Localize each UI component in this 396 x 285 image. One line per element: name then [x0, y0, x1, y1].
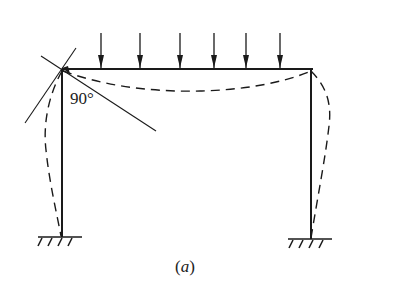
distributed-load-arrows [98, 33, 283, 68]
caption-letter: a [181, 257, 190, 276]
deflected-right-column [311, 71, 330, 238]
figure-caption: (a) [175, 257, 195, 277]
portal-frame-diagram: 90° (a) [0, 0, 396, 285]
frame-drawing [0, 0, 396, 285]
tangent-line-beam [41, 56, 156, 131]
angle-label: 90° [70, 89, 94, 109]
deflected-left-column [45, 71, 62, 236]
tangent-line-column [25, 48, 76, 123]
right-fixed-support [288, 239, 332, 248]
caption-close-paren: ) [189, 257, 195, 276]
deflected-beam [63, 71, 311, 91]
left-fixed-support [38, 237, 82, 246]
